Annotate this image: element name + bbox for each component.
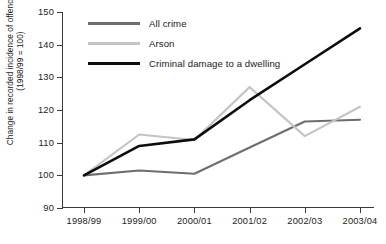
x-tick-5 <box>360 208 361 213</box>
legend-item: Arson <box>88 38 280 49</box>
x-tick-label-2001/02: 2001/02 <box>232 216 267 226</box>
y-tick-label-130: 130 <box>38 72 54 82</box>
legend: All crimeArsonCriminal damage to a dwell… <box>88 18 280 69</box>
y-tick-90 <box>57 208 63 209</box>
x-tick-3 <box>250 208 251 213</box>
y-axis-title-line-2: (1998/99 = 100) <box>16 31 26 90</box>
legend-item: Criminal damage to a dwelling <box>88 58 280 69</box>
x-tick-label-2000/01: 2000/01 <box>177 216 212 226</box>
x-tick-label-2002/03: 2002/03 <box>287 216 322 226</box>
legend-swatch-icon <box>88 62 140 65</box>
x-tick-2 <box>194 208 195 213</box>
legend-label: All crime <box>149 18 187 29</box>
legend-item: All crime <box>88 18 280 29</box>
legend-label: Arson <box>149 38 175 49</box>
y-tick-label-120: 120 <box>38 105 54 115</box>
x-tick-1 <box>139 208 140 213</box>
x-tick-4 <box>305 208 306 213</box>
y-tick-label-90: 90 <box>43 203 54 213</box>
legend-swatch-icon <box>88 22 140 25</box>
series-line-arson <box>84 87 360 175</box>
x-tick-label-1999/00: 1999/00 <box>122 216 157 226</box>
x-tick-label-2003/04: 2003/04 <box>343 216 378 226</box>
y-tick-label-100: 100 <box>38 170 54 180</box>
y-axis-title-line-1: Change in recorded incidence of offence … <box>6 0 16 145</box>
y-tick-label-110: 110 <box>39 138 54 148</box>
line-chart: Change in recorded incidence of offence … <box>0 0 386 244</box>
x-tick-label-1998/99: 1998/99 <box>67 216 102 226</box>
y-tick-label-150: 150 <box>38 7 54 17</box>
y-tick-label-140: 140 <box>38 40 54 50</box>
x-tick-0 <box>84 208 85 213</box>
legend-swatch-icon <box>88 42 140 45</box>
legend-label: Criminal damage to a dwelling <box>149 58 280 69</box>
y-axis-title: Change in recorded incidence of offence … <box>2 0 30 156</box>
